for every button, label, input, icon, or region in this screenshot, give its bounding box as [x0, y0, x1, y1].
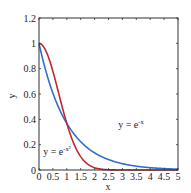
curve-annotations: y = e-xy = e-x² — [43, 118, 144, 157]
x-axis-label: x — [106, 181, 111, 192]
x-tick-label: 3 — [120, 171, 125, 182]
x-tick-label: 0 — [37, 171, 42, 182]
x-tick-label: 1.5 — [74, 171, 87, 182]
y-tick-label: 1.2 — [24, 13, 37, 24]
line-chart: 00.511.522.533.544.55 00.20.40.60.811.2 … — [0, 0, 191, 193]
y-tick-label: 0.6 — [24, 89, 37, 100]
x-tick-label: 0.5 — [47, 171, 60, 182]
x-tick-label: 4 — [148, 171, 153, 182]
x-tick-label: 4.5 — [158, 171, 171, 182]
x-tick-label: 5 — [176, 171, 181, 182]
curve-annotation: y = e-x² — [43, 145, 70, 157]
x-tick-label: 2 — [92, 171, 97, 182]
y-tick-labels: 00.20.40.60.811.2 — [24, 13, 37, 176]
y-tick-label: 0.8 — [24, 63, 37, 74]
y-tick-label: 0.2 — [24, 139, 37, 150]
y-tick-label: 0.4 — [24, 114, 37, 125]
y-tick-label: 0 — [31, 165, 36, 176]
x-tick-label: 3.5 — [130, 171, 143, 182]
y-axis-label: y — [6, 94, 17, 99]
x-tick-label: 1 — [64, 171, 69, 182]
y-tick-label: 1 — [31, 38, 36, 49]
curve-annotation: y = e-x — [118, 118, 144, 130]
